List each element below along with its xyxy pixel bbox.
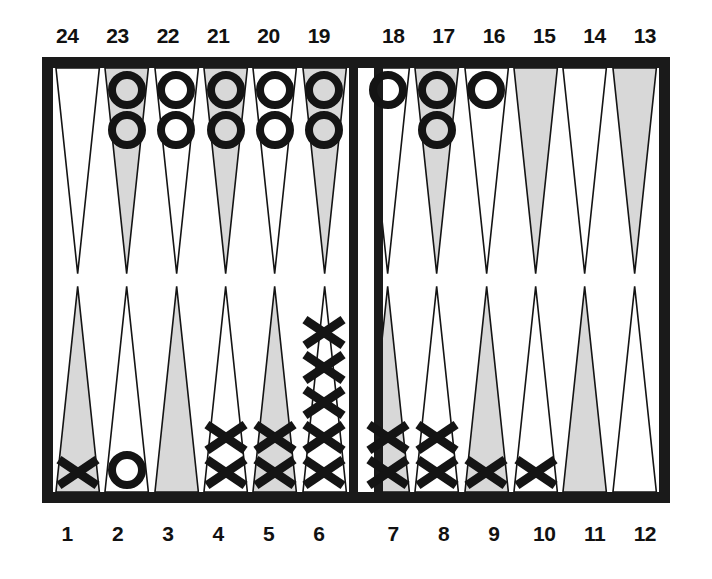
cross-checker-icon[interactable] [303,385,345,419]
bottom-left-label-group: 123456 [42,519,344,551]
checker-stack-point-7[interactable] [363,419,412,489]
cross-checker-icon[interactable] [205,455,247,489]
point-23[interactable] [102,68,151,280]
point-triangle-3 [152,280,201,492]
checker-stack-point-20[interactable] [250,71,299,151]
checker-stack-point-10[interactable] [511,454,560,489]
circle-checker-icon[interactable] [207,71,245,109]
cross-checker-icon[interactable] [465,455,507,489]
bottom-point-label-12: 12 [620,519,670,551]
point-triangle-14 [560,68,609,280]
bottom-point-label-2: 2 [92,519,142,551]
circle-checker-icon[interactable] [369,71,407,109]
point-triangle-15 [511,68,560,280]
circle-checker-icon[interactable] [108,451,146,489]
point-19[interactable] [300,68,349,280]
bottom-right-label-group: 789101112 [368,519,670,551]
cross-checker-icon[interactable] [303,455,345,489]
point-4[interactable] [201,280,250,492]
point-16[interactable] [462,68,511,280]
top-label-bar-gap [344,21,368,53]
point-21[interactable] [201,68,250,280]
cross-checker-icon[interactable] [254,455,296,489]
checker-stack-point-8[interactable] [412,419,461,489]
point-2[interactable] [102,280,151,492]
checker-stack-point-18[interactable] [363,71,412,111]
top-point-label-24: 24 [42,21,92,53]
point-1[interactable] [53,280,102,492]
bottom-point-label-9: 9 [469,519,519,551]
cross-checker-icon[interactable] [303,350,345,384]
point-6[interactable] [300,280,349,492]
bottom-point-label-4: 4 [193,519,243,551]
checker-stack-point-4[interactable] [201,419,250,489]
cross-checker-icon[interactable] [416,420,458,454]
top-point-label-16: 16 [469,21,519,53]
circle-checker-icon[interactable] [157,71,195,109]
circle-checker-icon[interactable] [418,71,456,109]
top-right-label-group: 181716151413 [368,21,670,53]
top-point-label-22: 22 [143,21,193,53]
point-10[interactable] [511,280,560,492]
top-point-label-23: 23 [92,21,142,53]
point-20[interactable] [250,68,299,280]
top-point-label-13: 13 [620,21,670,53]
point-24[interactable] [53,68,102,280]
bottom-point-label-5: 5 [243,519,293,551]
checker-stack-point-23[interactable] [102,71,151,151]
circle-checker-icon[interactable] [256,111,294,149]
circle-checker-icon[interactable] [418,111,456,149]
point-9[interactable] [462,280,511,492]
cross-checker-icon[interactable] [303,315,345,349]
checker-stack-point-2[interactable] [102,449,151,489]
cross-checker-icon[interactable] [515,455,557,489]
checker-stack-point-21[interactable] [201,71,250,151]
cross-checker-icon[interactable] [303,420,345,454]
point-14[interactable] [560,68,609,280]
checker-stack-point-16[interactable] [462,71,511,111]
board-interior [53,68,659,492]
circle-checker-icon[interactable] [207,111,245,149]
cross-checker-icon[interactable] [254,420,296,454]
point-3[interactable] [152,280,201,492]
top-point-label-19: 19 [294,21,344,53]
cross-checker-icon[interactable] [367,420,409,454]
point-5[interactable] [250,280,299,492]
checker-stack-point-1[interactable] [53,454,102,489]
cross-checker-icon[interactable] [205,420,247,454]
top-point-label-18: 18 [368,21,418,53]
circle-checker-icon[interactable] [157,111,195,149]
circle-checker-icon[interactable] [305,71,343,109]
top-point-labels: 242322212019 181716151413 [42,21,670,53]
circle-checker-icon[interactable] [108,71,146,109]
point-8[interactable] [412,280,461,492]
checker-stack-point-9[interactable] [462,454,511,489]
circle-checker-icon[interactable] [256,71,294,109]
point-12[interactable] [610,280,659,492]
cross-checker-icon[interactable] [367,455,409,489]
point-triangle-11 [560,280,609,492]
checker-stack-point-5[interactable] [250,419,299,489]
circle-checker-icon[interactable] [108,111,146,149]
point-13[interactable] [610,68,659,280]
checker-stack-point-22[interactable] [152,71,201,151]
top-point-label-14: 14 [569,21,619,53]
point-17[interactable] [412,68,461,280]
checker-stack-point-19[interactable] [300,71,349,151]
top-point-label-17: 17 [418,21,468,53]
circle-checker-icon[interactable] [467,71,505,109]
cross-checker-icon[interactable] [57,455,99,489]
bottom-point-labels: 123456 789101112 [42,519,670,551]
top-point-label-21: 21 [193,21,243,53]
bottom-point-label-8: 8 [418,519,468,551]
checker-stack-point-17[interactable] [412,71,461,151]
point-11[interactable] [560,280,609,492]
point-triangle-24 [53,68,102,280]
point-triangle-13 [610,68,659,280]
cross-checker-icon[interactable] [416,455,458,489]
bottom-point-label-11: 11 [569,519,619,551]
checker-stack-point-6[interactable] [300,314,349,489]
point-15[interactable] [511,68,560,280]
circle-checker-icon[interactable] [305,111,343,149]
point-22[interactable] [152,68,201,280]
